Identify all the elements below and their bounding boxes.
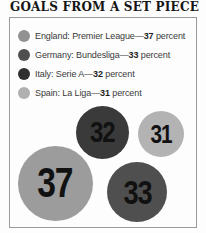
legend-value: 37 (144, 31, 154, 41)
bubble-italy: 32 (76, 106, 129, 159)
bubble-value-england: 37 (38, 162, 73, 204)
legend-text: England: Premier League— (35, 31, 144, 41)
legend-item-england: England: Premier League—37 percent (18, 26, 196, 45)
legend-item-italy: Italy: Serie A—32 percent (18, 64, 196, 83)
bubble-value-italy: 32 (90, 117, 114, 147)
legend-label-spain: Spain: La Liga—31 percent (35, 88, 142, 98)
legend-suffix: percent (110, 88, 142, 98)
legend-dot-spain (18, 87, 30, 99)
page-title: GOALS FROM A SET PIECE (10, 0, 199, 14)
legend-value: 31 (100, 88, 110, 98)
bubble-germany: 33 (107, 162, 167, 222)
legend-suffix: percent (138, 50, 170, 60)
legend-text: Germany: Bundesliga— (35, 50, 129, 60)
legend-text: Spain: La Liga— (35, 88, 100, 98)
legend-value: 33 (129, 50, 139, 60)
legend-text: Italy: Serie A— (35, 69, 93, 79)
legend-dot-england (18, 30, 30, 42)
bubble-spain: 31 (138, 111, 184, 157)
legend-dot-germany (18, 49, 30, 61)
bubble-value-spain: 31 (151, 121, 172, 147)
legend-label-germany: Germany: Bundesliga—33 percent (35, 50, 170, 60)
legend: England: Premier League—37 percent Germa… (10, 18, 196, 102)
bubble-england: 37 (18, 146, 93, 221)
legend-value: 32 (93, 69, 103, 79)
legend-item-germany: Germany: Bundesliga—33 percent (18, 45, 196, 64)
legend-label-england: England: Premier League—37 percent (35, 31, 185, 41)
legend-suffix: percent (103, 69, 135, 79)
infographic-canvas: GOALS FROM A SET PIECE England: Premier … (0, 0, 206, 233)
legend-dot-italy (18, 68, 30, 80)
legend-item-spain: Spain: La Liga—31 percent (18, 83, 196, 102)
legend-label-italy: Italy: Serie A—32 percent (35, 69, 135, 79)
legend-suffix: percent (153, 31, 185, 41)
bubble-value-germany: 33 (123, 175, 151, 209)
